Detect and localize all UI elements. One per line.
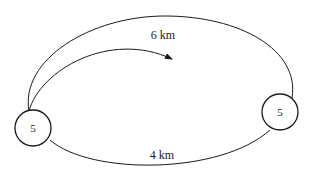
edge-bottom-label: 4 km bbox=[150, 148, 175, 162]
node-left-label: 5 bbox=[30, 122, 36, 134]
direction-arrow-icon bbox=[29, 49, 172, 111]
node-right: 5 bbox=[262, 94, 298, 130]
node-right-label: 5 bbox=[277, 106, 283, 118]
node-left: 5 bbox=[15, 110, 51, 146]
diagram-canvas: 5 5 6 km 4 km bbox=[0, 0, 314, 177]
edge-top-label: 6 km bbox=[151, 28, 176, 42]
